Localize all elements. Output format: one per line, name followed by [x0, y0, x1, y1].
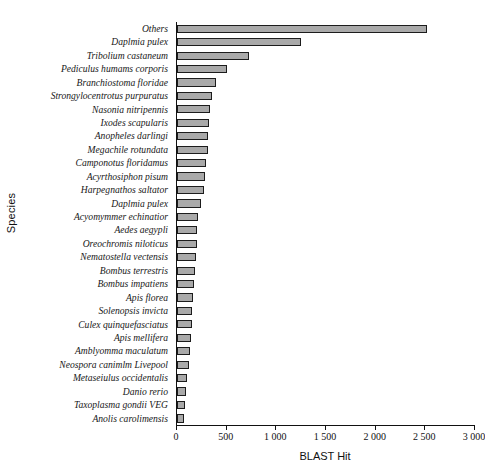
- x-axis-tick: [424, 425, 425, 430]
- bar: [177, 159, 206, 167]
- bar-row: [177, 197, 475, 210]
- x-axis-tick: [375, 425, 376, 430]
- bar-row: [177, 35, 475, 48]
- category-label: Acyrthosiphon pisum: [20, 170, 172, 183]
- bar: [177, 280, 194, 288]
- bar-row: [177, 116, 475, 129]
- x-axis-tick-label: 3 000: [463, 431, 485, 442]
- bar-row: [177, 385, 475, 398]
- bar-row: [177, 183, 475, 196]
- plot-area: [176, 22, 475, 425]
- bar-row: [177, 237, 475, 250]
- bar: [177, 334, 191, 342]
- x-axis-tick-labels: 05001 0001 5002 0002 5003 000: [176, 431, 474, 445]
- bar: [177, 293, 193, 301]
- bar-row: [177, 210, 475, 223]
- category-label: Ixodes scapularis: [20, 116, 172, 129]
- bar: [177, 240, 197, 248]
- bar: [177, 387, 186, 395]
- category-label: Taxoplasma gondii VEG: [20, 398, 172, 411]
- x-axis-tick: [474, 425, 475, 430]
- bar-row: [177, 224, 475, 237]
- bar: [177, 172, 205, 180]
- x-axis-tick-label: 500: [218, 431, 233, 442]
- bar-row: [177, 103, 475, 116]
- x-axis-tick: [176, 425, 177, 430]
- bar: [177, 186, 204, 194]
- bar-row: [177, 62, 475, 75]
- category-label: Apis florea: [20, 291, 172, 304]
- bar: [177, 226, 197, 234]
- category-label: Nematostella vectensis: [20, 250, 172, 263]
- category-label: Daplmia pulex: [20, 35, 172, 48]
- category-label: Anopheles darlingi: [20, 130, 172, 143]
- category-label: Nasonia nitripennis: [20, 103, 172, 116]
- category-label: Apis mellifera: [20, 331, 172, 344]
- category-label: Bombus terrestris: [20, 264, 172, 277]
- bar: [177, 320, 192, 328]
- category-label: Pediculus humams corporis: [20, 62, 172, 75]
- category-label: Strongylocentrotus purpuratus: [20, 89, 172, 102]
- bar: [177, 401, 185, 409]
- x-axis-ticks: [176, 425, 474, 430]
- x-axis-tick: [325, 425, 326, 430]
- category-label: Danio rerio: [20, 385, 172, 398]
- category-label: Tribolium castaneum: [20, 49, 172, 62]
- category-label: Culex quinquefasciatus: [20, 318, 172, 331]
- bar-row: [177, 22, 475, 35]
- category-label: Solenopsis invicta: [20, 304, 172, 317]
- category-label: Camponotus floridamus: [20, 156, 172, 169]
- bar: [177, 347, 190, 355]
- bar-row: [177, 143, 475, 156]
- category-label: Megachile rotundata: [20, 143, 172, 156]
- category-label: Amblyomma maculatum: [20, 345, 172, 358]
- x-axis-tick-label: 0: [174, 431, 179, 442]
- category-label: Daplmia pulex: [20, 197, 172, 210]
- bar-row: [177, 170, 475, 183]
- bar: [177, 307, 192, 315]
- bar-row: [177, 304, 475, 317]
- bar: [177, 65, 227, 73]
- bar: [177, 374, 187, 382]
- bar: [177, 52, 249, 60]
- bar: [177, 414, 184, 422]
- bar: [177, 38, 301, 46]
- category-label: Aedes aegypli: [20, 224, 172, 237]
- bar-row: [177, 331, 475, 344]
- x-axis-tick-label: 2 500: [413, 431, 436, 442]
- bar-row: [177, 156, 475, 169]
- x-axis-tick-label: 1 000: [264, 431, 287, 442]
- bar-row: [177, 76, 475, 89]
- category-label: Others: [20, 22, 172, 35]
- bar-row: [177, 277, 475, 290]
- category-label: Oreochromis niloticus: [20, 237, 172, 250]
- x-axis-tick-label: 1 500: [314, 431, 337, 442]
- x-axis-tick-label: 2 000: [363, 431, 386, 442]
- bar: [177, 92, 212, 100]
- category-label: Bombus impatiens: [20, 277, 172, 290]
- bar: [177, 361, 189, 369]
- x-axis-tick: [275, 425, 276, 430]
- category-label: Harpegnathos saltator: [20, 183, 172, 196]
- bar-series: [177, 22, 475, 425]
- bar: [177, 253, 196, 261]
- bar-row: [177, 318, 475, 331]
- y-axis-category-labels: OthersDaplmia pulexTribolium castaneumPe…: [20, 22, 172, 425]
- bar: [177, 25, 427, 33]
- bar: [177, 105, 210, 113]
- bar-row: [177, 358, 475, 371]
- bar: [177, 132, 208, 140]
- blast-hit-bar-chart: Species OthersDaplmia pulexTribolium cas…: [0, 0, 485, 472]
- bar-row: [177, 412, 475, 425]
- bar-row: [177, 291, 475, 304]
- bar-row: [177, 250, 475, 263]
- x-axis-tick: [226, 425, 227, 430]
- bar-row: [177, 371, 475, 384]
- bar: [177, 146, 208, 154]
- category-label: Branchiostoma floridae: [20, 76, 172, 89]
- bar-row: [177, 264, 475, 277]
- bar-row: [177, 89, 475, 102]
- x-axis-title: BLAST Hit: [176, 450, 474, 462]
- category-label: Neospora canimlm Livepool: [20, 358, 172, 371]
- category-label: Anolis carolimensis: [20, 412, 172, 425]
